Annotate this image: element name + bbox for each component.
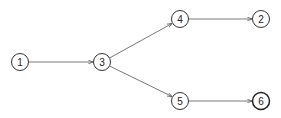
node-1: 1 — [12, 54, 29, 71]
edge-3-5 — [110, 66, 173, 97]
node-5: 5 — [172, 93, 189, 110]
node-label: 1 — [17, 57, 23, 68]
node-label: 5 — [177, 96, 183, 107]
edge-3-4 — [110, 24, 173, 59]
node-3: 3 — [94, 54, 111, 71]
graph-diagram: 1 3 4 2 5 6 — [0, 0, 281, 118]
nodes: 1 3 4 2 5 6 — [12, 11, 270, 110]
edges — [29, 19, 253, 101]
node-label: 4 — [177, 14, 183, 25]
node-label: 2 — [258, 14, 264, 25]
node-6: 6 — [253, 93, 270, 110]
node-4: 4 — [172, 11, 189, 28]
node-2: 2 — [253, 11, 270, 28]
graph-svg: 1 3 4 2 5 6 — [0, 0, 281, 118]
node-label: 3 — [99, 57, 105, 68]
node-label: 6 — [258, 96, 264, 107]
